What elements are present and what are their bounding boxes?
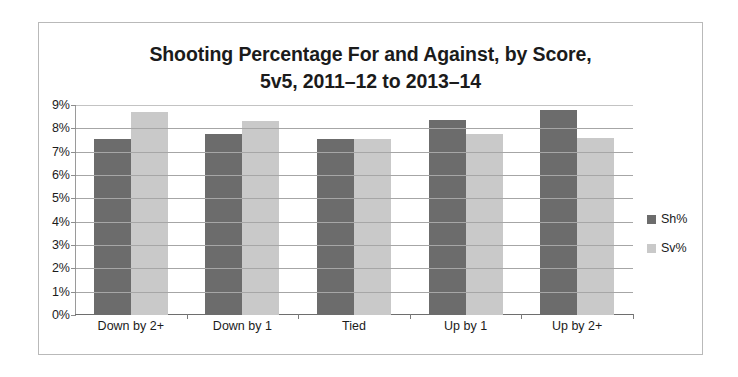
y-tick-label: 2% [52,261,70,275]
bar-sh-3[interactable] [429,120,466,315]
gridline [75,268,633,269]
bar-group [298,105,410,315]
y-axis: 9%8%7%6%5%4%3%2%1%0% [39,105,73,315]
x-axis: Down by 2+Down by 1TiedUp by 1Up by 2+ [75,319,633,333]
gridline [75,175,633,176]
y-tick-label: 9% [52,98,70,112]
chart-container: Shooting Percentage For and Against, by … [38,22,703,355]
chart-legend: Sh%Sv% [647,212,707,270]
y-tick-label: 0% [52,308,70,322]
gridline [75,222,633,223]
y-tick-label: 1% [52,285,70,299]
bar-group [187,105,299,315]
bar-group [75,105,187,315]
y-tick-label: 6% [52,168,70,182]
y-tick-mark [71,152,76,153]
gridline [75,198,633,199]
y-tick-label: 7% [52,145,70,159]
bar-sv-4[interactable] [577,138,614,315]
legend-label: Sh% [661,212,687,226]
y-tick-mark [71,175,76,176]
bar-sh-1[interactable] [205,134,242,315]
bar-sv-1[interactable] [242,121,279,315]
legend-item-sv[interactable]: Sv% [647,241,707,255]
legend-label: Sv% [661,241,687,255]
y-tick-mark [71,128,76,129]
y-tick-label: 5% [52,191,70,205]
y-tick-mark [71,198,76,199]
bar-group [410,105,522,315]
y-tick-mark [71,245,76,246]
legend-swatch-icon [647,244,656,253]
legend-swatch-icon [647,215,656,224]
y-tick-label: 4% [52,215,70,229]
y-tick-mark [71,268,76,269]
gridline [75,128,633,129]
y-tick-label: 3% [52,238,70,252]
x-tick-label-2: Tied [298,319,410,333]
y-tick-label: 8% [52,121,70,135]
bar-sh-2[interactable] [317,139,354,315]
bar-group [521,105,633,315]
y-tick-mark [71,222,76,223]
x-tick-label-4: Up by 2+ [521,319,633,333]
bar-sh-4[interactable] [540,110,577,315]
bar-sv-3[interactable] [466,134,503,315]
y-tick-mark [71,105,76,106]
y-tick-mark [71,292,76,293]
x-tick-label-3: Up by 1 [410,319,522,333]
gridline [75,245,633,246]
x-tick-label-1: Down by 1 [187,319,299,333]
x-tick-mark [633,314,634,319]
x-tick-label-0: Down by 2+ [75,319,187,333]
bar-sv-0[interactable] [131,112,168,315]
gridline [75,105,633,106]
legend-item-sh[interactable]: Sh% [647,212,707,226]
plot-area [75,105,633,315]
gridline [75,152,633,153]
y-tick-mark [71,315,76,316]
plot-wrapper: 9%8%7%6%5%4%3%2%1%0% Down by 2+Down by 1… [39,23,702,354]
bar-groups [75,105,633,315]
bar-sv-2[interactable] [354,139,391,315]
gridline [75,292,633,293]
bar-sh-0[interactable] [94,139,131,315]
